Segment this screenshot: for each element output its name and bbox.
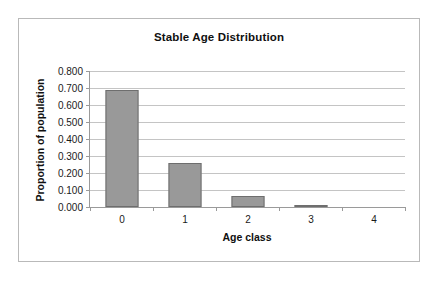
y-axis-tick-label: 0.200 xyxy=(58,168,83,179)
x-axis-tick xyxy=(153,207,154,211)
y-axis-title-label: Proportion of population xyxy=(34,78,46,201)
bar[interactable] xyxy=(168,163,201,207)
bar-slot xyxy=(153,71,216,207)
y-axis-tick-label: 0.100 xyxy=(58,185,83,196)
y-axis-tick-label: 0.600 xyxy=(58,100,83,111)
bar[interactable] xyxy=(105,90,138,207)
x-axis-tick xyxy=(405,207,406,211)
x-axis-tick-label: 4 xyxy=(371,214,377,225)
y-axis-title: Proportion of population xyxy=(33,71,47,208)
plot-area: 0.0000.1000.2000.3000.4000.5000.6000.700… xyxy=(89,71,405,208)
bar-slot xyxy=(90,71,153,207)
chart-title: Stable Age Distribution xyxy=(19,31,419,43)
bar-series xyxy=(90,71,405,207)
x-axis-tick xyxy=(216,207,217,211)
y-axis-tick-label: 0.000 xyxy=(58,202,83,213)
bar-slot xyxy=(216,71,279,207)
x-axis-tick xyxy=(342,207,343,211)
bar[interactable] xyxy=(294,205,327,207)
x-axis-title: Age class xyxy=(89,231,405,243)
y-axis-tick-label: 0.500 xyxy=(58,117,83,128)
x-axis-tick xyxy=(90,207,91,211)
y-axis-tick-label: 0.300 xyxy=(58,151,83,162)
y-axis-tick-label: 0.400 xyxy=(58,134,83,145)
x-axis-tick-label: 0 xyxy=(119,214,125,225)
x-axis-tick xyxy=(279,207,280,211)
chart-frame: Stable Age Distribution Proportion of po… xyxy=(18,18,420,262)
y-axis-tick-label: 0.700 xyxy=(58,83,83,94)
bar[interactable] xyxy=(231,196,264,207)
y-axis-tick-label: 0.800 xyxy=(58,66,83,77)
x-axis-tick-label: 1 xyxy=(182,214,188,225)
bar-slot xyxy=(279,71,342,207)
x-axis-tick-label: 2 xyxy=(245,214,251,225)
bar-slot xyxy=(342,71,405,207)
x-axis-tick-label: 3 xyxy=(308,214,314,225)
